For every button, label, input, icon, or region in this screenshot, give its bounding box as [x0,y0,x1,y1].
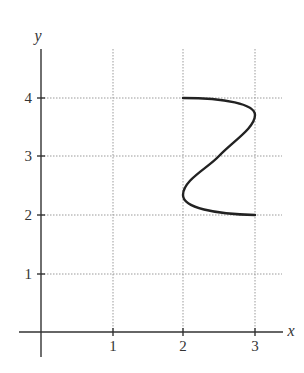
y-tick-label-1: 1 [25,266,33,282]
x-tick-label-3: 3 [251,338,259,354]
grid [41,49,282,332]
chart: 1 2 3 1 2 3 4 x y [0,0,304,373]
s-curve [183,98,255,215]
x-tick-label-1: 1 [109,338,117,354]
y-tick-label-3: 3 [25,148,33,164]
y-tick-label-2: 2 [25,207,33,223]
y-tick-label-4: 4 [25,90,33,106]
y-axis-label: y [32,27,42,45]
x-tick-label-2: 2 [179,338,187,354]
x-axis-label: x [286,322,294,339]
